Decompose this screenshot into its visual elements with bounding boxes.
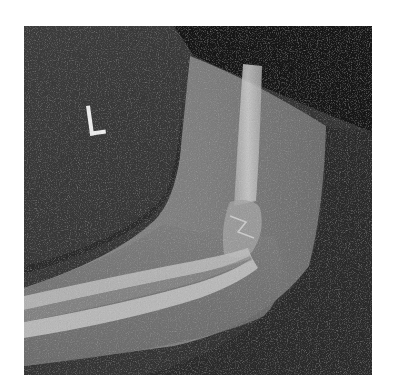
xray-image — [24, 26, 372, 375]
cropped-caption — [22, 0, 322, 3]
page — [0, 0, 396, 392]
xray-svg — [24, 26, 372, 375]
